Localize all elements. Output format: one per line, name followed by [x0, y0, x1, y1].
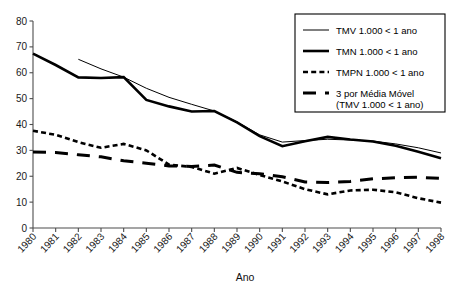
x-tick-label: 1989 — [219, 231, 243, 255]
legend-label-4: 3 por Média Móvel — [336, 88, 414, 99]
y-tick-label: 60 — [16, 67, 28, 78]
legend-label-4-line2: (TMV 1.000 < 1 ano) — [336, 99, 423, 110]
x-tick-label: 1990 — [242, 231, 266, 255]
chart-container: 01020304050607080 1980198119821983198419… — [0, 0, 455, 287]
y-tick-label: 70 — [16, 41, 28, 52]
x-tick-label: 1986 — [151, 231, 175, 255]
chart-legend: TMV 1.000 < 1 anoTMN 1.000 < 1 anoTMPN 1… — [295, 14, 445, 112]
y-tick-label: 10 — [16, 197, 28, 208]
x-tick-label: 1997 — [401, 231, 425, 255]
x-axis: 1980198119821983198419851986198719881989… — [15, 228, 447, 255]
x-tick-label: 1992 — [287, 231, 311, 255]
y-tick-label: 30 — [16, 145, 28, 156]
x-tick-label: 1983 — [83, 231, 107, 255]
legend-label-1: TMV 1.000 < 1 ano — [336, 25, 417, 36]
x-tick-label: 1984 — [106, 231, 130, 255]
x-tick-label: 1995 — [355, 231, 379, 255]
line-chart-figure: 01020304050607080 1980198119821983198419… — [0, 0, 455, 287]
x-tick-label: 1988 — [197, 231, 221, 255]
y-tick-label: 80 — [16, 16, 28, 27]
x-tick-label: 1996 — [378, 231, 402, 255]
x-tick-label: 1994 — [333, 231, 357, 255]
x-tick-label: 1991 — [265, 231, 289, 255]
x-axis-title: Ano — [236, 271, 255, 283]
legend-label-3: TMPN 1.000 < 1 ano — [336, 67, 424, 78]
x-tick-label: 1998 — [423, 231, 447, 255]
legend-label-2: TMN 1.000 < 1 ano — [336, 46, 418, 57]
x-tick-label: 1981 — [38, 231, 62, 255]
x-tick-label: 1985 — [129, 231, 153, 255]
y-tick-label: 50 — [16, 93, 28, 104]
x-tick-label: 1987 — [174, 231, 198, 255]
x-tick-label: 1993 — [310, 231, 334, 255]
y-tick-label: 20 — [16, 171, 28, 182]
x-tick-label: 1980 — [15, 231, 39, 255]
y-axis: 01020304050607080 — [16, 16, 33, 234]
y-tick-label: 40 — [16, 119, 28, 130]
x-tick-label: 1982 — [61, 231, 85, 255]
y-tick-label: 0 — [21, 223, 27, 234]
